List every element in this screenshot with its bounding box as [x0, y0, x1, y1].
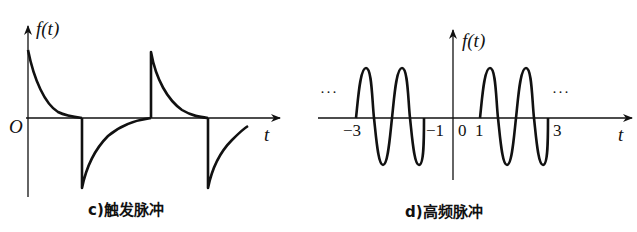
ellipsis-left: ··· [320, 84, 338, 101]
tick-label-3: 3 [553, 121, 562, 141]
panel-c-x-label: t [264, 124, 269, 146]
tick-label-neg3: −3 [343, 121, 361, 141]
tick-label-neg1: −1 [426, 121, 444, 141]
panel-d-burst-left [356, 68, 424, 165]
panel-d-axes [318, 30, 632, 180]
panel-c-waveform [28, 50, 248, 188]
panel-c-y-label: f(t) [36, 18, 59, 40]
panel-d-burst-right [480, 68, 548, 165]
ellipsis-right: ··· [552, 84, 570, 101]
panel-d-x-label: t [618, 124, 623, 146]
panel-d-caption: d)高频脉冲 [405, 200, 483, 221]
panel-c-origin-label: O [9, 116, 23, 138]
panel-d-y-label: f(t) [462, 30, 485, 52]
tick-label-0: 0 [458, 121, 467, 141]
panel-c-caption: c)触发脉冲 [88, 198, 164, 219]
tick-label-1: 1 [475, 121, 484, 141]
panel-c-axes [26, 26, 280, 197]
